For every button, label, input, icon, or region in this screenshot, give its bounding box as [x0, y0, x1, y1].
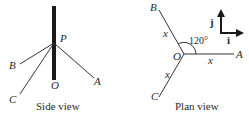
label-o: O [51, 79, 59, 91]
plan-view: O A B C x x x 120° j i Plan view [150, 1, 244, 112]
side-view: P O A B C Side view [9, 6, 101, 112]
length-oc: x [164, 68, 170, 80]
j-arrow-head [217, 9, 225, 17]
label-c: C [9, 93, 17, 105]
cable-pa [54, 43, 94, 78]
label-p: P [59, 32, 67, 44]
caption-side-view: Side view [36, 100, 80, 112]
label-c: C [151, 90, 159, 102]
label-b: B [9, 59, 16, 71]
length-oa: x [207, 54, 213, 66]
length-ob: x [162, 27, 168, 39]
label-o: O [173, 50, 181, 62]
cable-pb [20, 43, 54, 64]
label-a: A [235, 48, 243, 60]
cable-pc [20, 43, 54, 94]
label-b: B [150, 1, 157, 13]
diagram: P O A B C Side view O A B C x x x 120° j… [0, 0, 249, 120]
i-arrow-head [236, 29, 244, 37]
caption-plan-view: Plan view [175, 100, 219, 112]
label-a: A [93, 75, 101, 87]
angle-label: 120° [189, 35, 208, 46]
label-i: i [227, 34, 230, 46]
label-j: j [209, 16, 214, 28]
